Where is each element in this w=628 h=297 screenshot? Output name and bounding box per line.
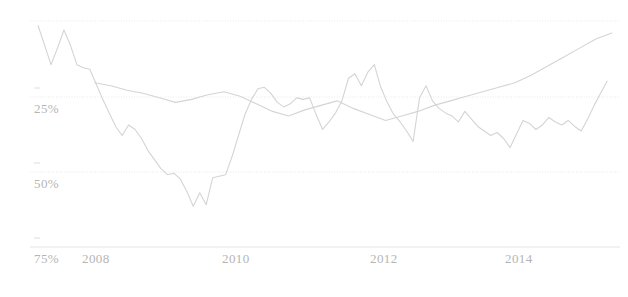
gridline-group	[30, 21, 620, 172]
y-tick-label-75: 75%	[34, 251, 59, 267]
x-tick-label-2014: 2014	[505, 251, 533, 267]
data-series-group	[38, 26, 612, 207]
x-tick-label-2012: 2012	[370, 251, 398, 267]
y-tick-label-50: 50%	[34, 176, 59, 192]
data-line-series-2	[95, 33, 612, 120]
data-line-series-1	[38, 26, 607, 207]
y-tick-label-25: 25%	[34, 101, 59, 117]
x-tick-label-2010: 2010	[222, 251, 250, 267]
line-chart-figure: 25% 50% 75% 2008 2010 2012 2014	[0, 0, 628, 297]
x-tick-label-2008: 2008	[82, 251, 110, 267]
